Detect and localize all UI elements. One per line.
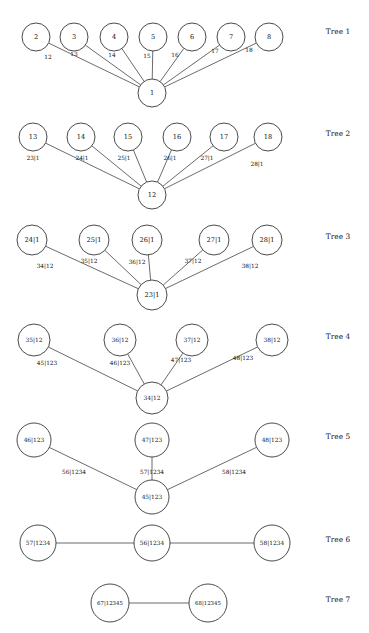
edge-label: 47|123 (171, 357, 192, 364)
tree-node: 45|123 (135, 480, 169, 514)
edge-label: 14 (108, 52, 116, 58)
node-label: 3 (72, 33, 76, 41)
node-label: 25|1 (87, 236, 102, 244)
node-label: 38|12 (264, 337, 281, 344)
node-label: 15 (124, 133, 132, 141)
tree-node: 6 (178, 23, 206, 51)
node-label: 47|123 (142, 437, 163, 444)
tree-node: 57|1234 (20, 525, 56, 561)
tree-node: 8 (255, 23, 283, 51)
tree-node: 25|1 (79, 225, 109, 255)
node-label: 16 (173, 133, 181, 141)
node-label: 28|1 (260, 236, 275, 244)
tree-node: 7 (217, 23, 245, 51)
node-label: 26|1 (140, 236, 155, 244)
edge-label: 58|1234 (222, 469, 246, 476)
tree-node: 27|1 (199, 225, 229, 255)
tree-node: 5 (139, 23, 167, 51)
tree-4-edge (128, 354, 145, 384)
tree-node: 34|12 (136, 382, 168, 414)
vine-diagram-canvas: 234567811314151617181224|125|126|127|128… (0, 0, 369, 633)
tree-label-2: Tree 2 (326, 129, 350, 138)
node-label: 48|123 (262, 437, 283, 444)
tree-node: 48|123 (255, 423, 289, 457)
tree-node: 1 (138, 79, 166, 107)
node-label: 8 (267, 33, 271, 41)
tree-node: 67|12345 (91, 584, 129, 622)
tree-labels-layer: Tree 1Tree 2Tree 3Tree 4Tree 5Tree 6Tree… (326, 27, 351, 604)
node-label: 6 (190, 33, 194, 41)
node-label: 5 (151, 33, 155, 41)
tree-1-edge (152, 51, 153, 79)
node-label: 2 (34, 33, 38, 41)
node-label: 13 (29, 133, 37, 141)
edge-label: 45|123 (37, 360, 58, 367)
tree-node: 24|1 (17, 225, 47, 255)
node-label: 37|12 (184, 337, 201, 344)
edge-label: 26|1 (163, 155, 176, 162)
vine-tree-figure: 234567811314151617181224|125|126|127|128… (0, 0, 369, 633)
node-label: 57|1234 (26, 540, 51, 547)
tree-label-7: Tree 7 (326, 595, 351, 604)
node-label: 45|123 (142, 494, 163, 501)
tree-node: 68|12345 (189, 584, 227, 622)
tree-node: 58|1234 (254, 525, 290, 561)
edge-label: 36|12 (129, 259, 146, 266)
node-label: 68|12345 (195, 600, 221, 607)
tree-node: 23|1 (137, 280, 167, 310)
node-label: 35|12 (26, 337, 43, 344)
edge-label: 13 (70, 51, 78, 57)
tree-label-3: Tree 3 (326, 232, 351, 241)
tree-label-1: Tree 1 (326, 27, 350, 36)
edge-label: 38|12 (242, 263, 259, 270)
edge-label: 37|12 (185, 258, 202, 265)
node-label: 36|12 (112, 337, 129, 344)
tree-3-edge (148, 255, 150, 280)
edge-label: 18 (245, 47, 253, 53)
edge-label: 46|123 (110, 360, 131, 367)
tree-node: 13 (19, 123, 47, 151)
tree-node: 4 (100, 23, 128, 51)
tree-1-edge (49, 43, 140, 87)
tree-node: 17 (210, 123, 238, 151)
tree-1-edge (122, 49, 144, 82)
tree-node: 38|12 (256, 324, 288, 356)
node-label: 14 (77, 133, 85, 141)
tree-node: 18 (254, 123, 282, 151)
node-label: 18 (264, 133, 272, 141)
tree-node: 28|1 (252, 225, 282, 255)
node-label: 46|123 (24, 437, 45, 444)
tree-node: 16 (163, 123, 191, 151)
edge-label: 28|1 (250, 161, 263, 168)
node-label: 56|1234 (140, 540, 165, 547)
tree-node: 36|12 (104, 324, 136, 356)
tree-3-edge (105, 250, 141, 284)
edge-label: 24|1 (75, 155, 88, 162)
nodes-layer: 234567811314151617181224|125|126|127|128… (17, 23, 290, 622)
edge-label: 48|123 (233, 355, 254, 362)
edge-label: 27|1 (200, 155, 213, 162)
tree-node: 14 (67, 123, 95, 151)
tree-node: 35|12 (18, 324, 50, 356)
tree-node: 46|123 (17, 423, 51, 457)
tree-node: 3 (60, 23, 88, 51)
node-label: 67|12345 (97, 600, 123, 607)
tree-node: 26|1 (132, 225, 162, 255)
tree-node: 56|1234 (134, 525, 170, 561)
tree-label-5: Tree 5 (326, 432, 351, 441)
tree-node: 2 (22, 23, 50, 51)
tree-node: 37|12 (176, 324, 208, 356)
node-label: 34|12 (144, 395, 161, 402)
edge-label: 35|12 (81, 258, 98, 265)
tree-label-4: Tree 4 (326, 332, 351, 341)
tree-node: 12 (138, 181, 166, 209)
node-label: 4 (112, 33, 116, 41)
node-label: 12 (148, 191, 156, 199)
edge-label: 16 (171, 52, 179, 58)
node-label: 1 (150, 89, 154, 97)
edge-label: 57|1234 (140, 469, 164, 476)
edge-label: 34|12 (37, 263, 54, 270)
edge-label: 12 (44, 54, 52, 60)
node-label: 27|1 (207, 236, 222, 244)
edge-label: 23|1 (26, 155, 39, 162)
